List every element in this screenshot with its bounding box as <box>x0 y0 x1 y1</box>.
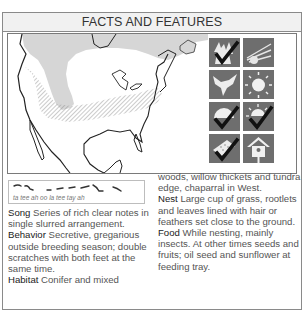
facts-and-features-panel: FACTS AND FEATURES <box>2 12 302 310</box>
behavior-section: Behavior Secretive, gregarious outside b… <box>8 229 152 274</box>
habitat-section: Habitat Conifer and mixed <box>8 274 152 285</box>
food-section: Food While nesting, mainly insects. At o… <box>158 227 302 272</box>
song-waveform <box>9 181 144 195</box>
feeding-tray-icon <box>209 134 240 163</box>
song-phonetic: ta tee ah oo la tee tay ah <box>13 194 85 201</box>
nest-section: Nest Large cup of grass, rootlets and le… <box>158 193 302 227</box>
sun-icon <box>243 70 274 99</box>
habitat-continued: woods, willow thickets and tundra edge, … <box>158 171 302 193</box>
winter-range <box>24 66 162 122</box>
song-section: Song Series of rich clear notes in singl… <box>8 207 152 229</box>
right-text-column: woods, willow thickets and tundra edge, … <box>158 171 302 272</box>
sunset-icon <box>243 102 274 131</box>
forest-habitat-icon <box>209 38 240 67</box>
left-text-column: Song Series of rich clear notes in singl… <box>8 207 152 285</box>
range-map <box>8 34 208 173</box>
sunrise-rays-icon <box>243 38 274 67</box>
bird-flying-icon <box>209 70 240 99</box>
half-sun-icon <box>209 102 240 131</box>
birdhouse-icon <box>243 134 274 163</box>
range-map-box <box>7 33 297 174</box>
panel-title: FACTS AND FEATURES <box>3 13 301 32</box>
song-sketch: ta tee ah oo la tee tay ah <box>8 180 145 204</box>
